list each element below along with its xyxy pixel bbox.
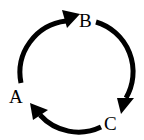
cycle-diagram: B A C <box>0 0 144 140</box>
arrow-c-to-a <box>30 103 101 132</box>
arrow-b-to-c <box>96 22 134 114</box>
node-label-a: A <box>9 86 23 107</box>
arrow-a-to-b <box>20 10 80 83</box>
node-label-b: B <box>79 10 92 31</box>
node-label-c: C <box>104 113 117 134</box>
